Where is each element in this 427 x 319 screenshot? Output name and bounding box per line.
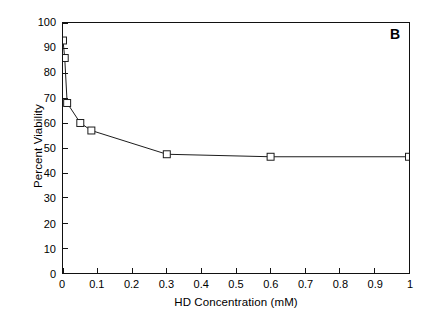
data-marker (267, 153, 274, 160)
data-marker (406, 153, 409, 160)
y-tick-label: 10 (26, 243, 56, 254)
y-tick-label: 20 (26, 218, 56, 229)
y-tick-label: 40 (26, 168, 56, 179)
y-tick-label: 70 (26, 92, 56, 103)
y-tick-label: 90 (26, 42, 56, 53)
y-tick-label: 80 (26, 67, 56, 78)
data-line (63, 41, 409, 157)
y-tick-label: 0 (26, 269, 56, 280)
data-marker (63, 37, 66, 44)
y-tick-label: 60 (26, 117, 56, 128)
x-tick-label: 1 (390, 279, 427, 290)
data-marker (88, 127, 95, 134)
x-axis-tick-labels: 00.10.20.30.40.50.60.70.80.91 (62, 279, 410, 295)
y-tick-label: 30 (26, 193, 56, 204)
y-tick-label: 100 (26, 17, 56, 28)
figure-panel-b: Percent Viability 0102030405060708090100… (0, 0, 427, 319)
data-marker (63, 55, 68, 62)
x-axis-title: HD Concentration (mM) (62, 296, 410, 308)
data-marker (163, 151, 170, 158)
data-marker (77, 120, 84, 127)
data-marker (64, 100, 71, 107)
panel-label: B (390, 27, 400, 41)
plot-svg (63, 23, 409, 273)
y-tick-label: 50 (26, 143, 56, 154)
plot-area: B (62, 22, 410, 274)
y-axis-tick-labels: 0102030405060708090100 (24, 22, 56, 274)
